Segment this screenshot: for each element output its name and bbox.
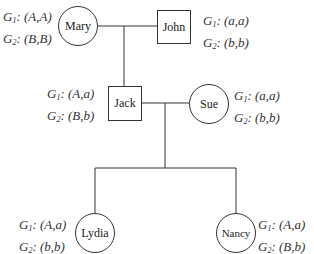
john-g1: (a,a) [224, 13, 249, 28]
name-jack: Jack [114, 96, 135, 111]
individual-john-male: John [157, 10, 191, 44]
genotype-nancy: G1: (A,a) G2: (B,b) [258, 216, 305, 254]
jack-g1: (A,a) [68, 86, 94, 101]
john-g2: (b,b) [224, 35, 249, 50]
name-nancy: Nancy [222, 227, 251, 239]
name-sue: Sue [200, 97, 218, 112]
name-mary: Mary [65, 19, 91, 34]
genotype-jack: G1: (A,a) G2: (B,b) [47, 85, 94, 129]
genotype-sue: G1: (a,a) G2: (b,b) [234, 87, 280, 131]
jack-g2: (B,b) [68, 108, 94, 123]
individual-jack-male: Jack [108, 86, 142, 121]
lydia-g2: (b,b) [40, 239, 65, 254]
sue-g1: (a,a) [255, 88, 280, 103]
genotype-lydia: G1: (A,a) G2: (b,b) [19, 216, 66, 254]
nancy-g1: (A,a) [279, 217, 305, 232]
individual-lydia-female: Lydia [75, 213, 115, 253]
individual-mary-female: Mary [58, 6, 98, 46]
name-lydia: Lydia [81, 226, 108, 241]
genotype-john: G1: (a,a) G2: (b,b) [203, 12, 249, 56]
mary-g2: (B,B) [24, 31, 52, 46]
nancy-g2: (B,b) [279, 239, 305, 254]
individual-nancy-female: Nancy [216, 213, 256, 253]
genotype-mary: G1: (A,A) G2: (B,B) [3, 8, 52, 52]
lydia-g1: (A,a) [40, 217, 66, 232]
individual-sue-female: Sue [189, 84, 229, 124]
mary-g1: (A,A) [24, 9, 52, 24]
sue-g2: (b,b) [255, 110, 280, 125]
name-john: John [163, 20, 186, 35]
